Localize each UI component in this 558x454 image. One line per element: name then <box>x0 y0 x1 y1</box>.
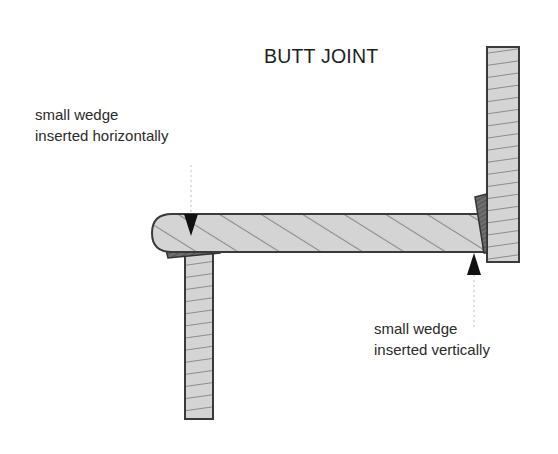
annotation-horizontal-wedge: small wedge inserted horizontally <box>35 104 168 146</box>
annotation-line: inserted horizontally <box>35 125 168 146</box>
diagram-title: BUTT JOINT <box>264 45 378 68</box>
annotation-vertical-wedge: small wedge inserted vertically <box>374 318 490 360</box>
annotation-line: inserted vertically <box>374 339 490 360</box>
annotation-line: small wedge <box>374 318 490 339</box>
horizontal-rail <box>152 214 484 252</box>
right-post <box>487 47 519 262</box>
arrow-up-icon <box>467 253 481 275</box>
left-post <box>185 253 213 419</box>
annotation-line: small wedge <box>35 104 168 125</box>
butt-joint-diagram: BUTT JOINT small wedge inserted horizont… <box>0 0 558 454</box>
joint-illustration <box>0 0 558 454</box>
